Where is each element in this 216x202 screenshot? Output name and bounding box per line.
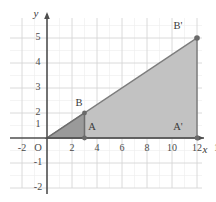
x-tick-12: 12 <box>192 142 202 153</box>
y-tick-4: 4 <box>36 56 41 67</box>
label-A-prime: A' <box>173 121 183 132</box>
marker-B <box>82 111 87 116</box>
x-tick-6: 6 <box>120 142 125 153</box>
y-tick--1: -1 <box>34 156 42 167</box>
y-axis-label: y <box>33 7 39 19</box>
x-tick--2: -2 <box>18 142 26 153</box>
origin-label: O <box>34 142 42 153</box>
x-axis-label: x <box>202 143 208 155</box>
marker-A-prime <box>195 136 200 141</box>
label-B-prime: B' <box>174 20 183 31</box>
x-tick-14: 14 <box>214 142 216 153</box>
marker-B-prime <box>194 35 200 41</box>
marker-A <box>82 136 87 141</box>
y-tick-2: 2 <box>36 106 41 117</box>
x-tick-4: 4 <box>95 142 100 153</box>
coordinate-plane-svg: x y -2 2 4 6 8 10 12 14 5 4 3 2 1 -1 -2 … <box>0 0 216 202</box>
x-tick-10: 10 <box>167 142 177 153</box>
x-tick-8: 8 <box>145 142 150 153</box>
y-axis-arrow <box>44 12 50 19</box>
coordinate-figure: x y -2 2 4 6 8 10 12 14 5 4 3 2 1 -1 -2 … <box>0 0 216 202</box>
y-tick-5: 5 <box>36 31 41 42</box>
label-B: B <box>75 97 82 108</box>
y-tick-1: 1 <box>36 118 41 129</box>
label-A: A <box>88 121 96 132</box>
y-tick--2: -2 <box>34 181 42 192</box>
x-tick-2: 2 <box>70 142 75 153</box>
y-tick-3: 3 <box>36 81 41 92</box>
